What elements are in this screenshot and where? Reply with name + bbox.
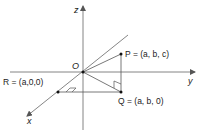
point-p-label: P = (a, b, c) xyxy=(125,49,169,59)
y-axis-label: y xyxy=(187,76,193,86)
segment-o-q xyxy=(83,72,121,92)
point-q xyxy=(120,91,123,94)
origin-label: O xyxy=(72,61,79,71)
right-angle-mark-q xyxy=(114,81,121,88)
origin-point xyxy=(82,71,85,74)
x-axis xyxy=(27,35,128,116)
segment-o-p xyxy=(83,54,121,72)
right-angle-mark-r xyxy=(66,88,76,92)
coordinate-diagram: z y x O P = (a, b, c) Q = (a, b, 0) R = … xyxy=(0,0,207,134)
z-axis-label: z xyxy=(73,5,79,15)
point-r xyxy=(57,91,60,94)
point-q-label: Q = (a, b, 0) xyxy=(118,96,164,106)
point-p xyxy=(120,53,123,56)
x-axis-label: x xyxy=(26,116,32,126)
point-r-label: R = (a,0,0) xyxy=(3,77,44,87)
